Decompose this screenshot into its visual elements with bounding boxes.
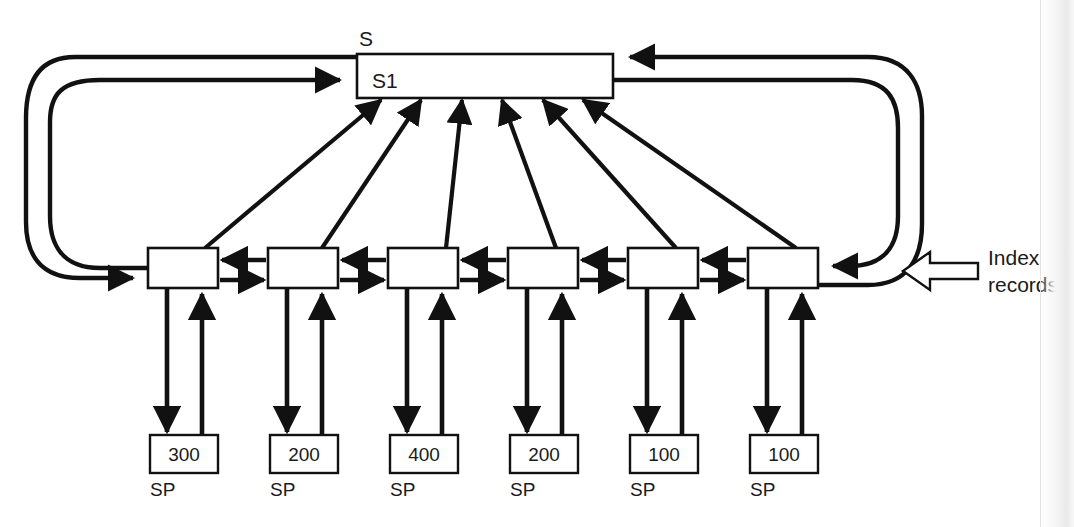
sp-label-2: SP [270,479,295,500]
sp-value-2: 200 [288,444,320,465]
index-record-4[interactable] [508,248,578,288]
pointer-index-6-to-s1 [583,100,796,248]
sp-label-4: SP [510,479,535,500]
sp-label-1: SP [150,479,175,500]
index-to-set-pointers [205,100,796,248]
sp-value-6: 100 [768,444,800,465]
linked-list-index-diagram: S1 S 300 SP 200 SP 400 SP 200 SP [0,0,1074,527]
set-title-label: S [359,27,373,50]
sp-value-3: 400 [408,444,440,465]
set-record-box[interactable]: S1 [357,54,613,98]
page-scan-edge-line [1040,0,1041,527]
index-record-3[interactable] [388,248,458,288]
pointer-index-3-to-s1 [446,100,462,248]
pointer-index-4-to-s1 [502,100,556,248]
annotation-line-1: Index [988,246,1040,269]
index-record-1[interactable] [148,248,218,288]
pointer-index-2-to-s1 [322,100,421,248]
sp-label-3: SP [390,479,415,500]
sp-label-6: SP [750,479,775,500]
index-record-2[interactable] [268,248,338,288]
sp-value-4: 200 [528,444,560,465]
set-record-name: S1 [372,69,398,92]
loop-right-inner [613,80,898,266]
index-records-annotation: Index records [903,246,1058,296]
sp-label-5: SP [630,479,655,500]
diagram-page: S1 S 300 SP 200 SP 400 SP 200 SP [0,0,1074,527]
sp-record-boxes: 300 SP 200 SP 400 SP 200 SP 100 SP 100 S… [150,435,818,500]
sp-value-5: 100 [648,444,680,465]
index-record-6[interactable] [748,248,818,288]
loop-left-outer [26,57,357,278]
index-record-5[interactable] [628,248,698,288]
pointer-index-1-to-s1 [205,100,381,248]
index-to-sp-links [167,288,802,436]
annotation-line-2: records [988,273,1058,296]
pointer-index-5-to-s1 [543,100,676,248]
loop-left-inner [50,80,340,268]
sp-value-1: 300 [168,444,200,465]
